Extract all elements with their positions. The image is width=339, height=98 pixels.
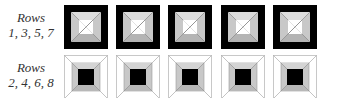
even-row-tile [273,55,317,98]
even-row-tile [64,55,108,98]
row-label-odd: Rows 1, 3, 5, 7 [0,10,62,40]
row-label-odd-title: Rows [0,10,62,25]
odd-row-tile [64,5,108,49]
row-label-odd-numbers: 1, 3, 5, 7 [0,25,62,40]
odd-row-tile [168,5,212,49]
row-label-even: Rows 2, 4, 6, 8 [0,60,62,90]
odd-row-tile [116,5,160,49]
even-row-tile [221,55,265,98]
even-row-tile [168,55,212,98]
row-label-even-numbers: 2, 4, 6, 8 [0,75,62,90]
odd-row-tile [221,5,265,49]
odd-row-tile [273,5,317,49]
row-label-even-title: Rows [0,60,62,75]
even-row-tile [116,55,160,98]
